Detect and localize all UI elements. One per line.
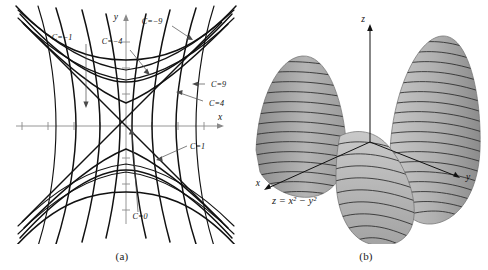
x-axis-label-3d: x xyxy=(255,178,261,188)
x-axis-arrow xyxy=(217,123,224,129)
x-axis-label: x xyxy=(217,112,223,122)
contour-label-c-9: C=9 xyxy=(211,80,226,89)
panel-a-contour-plot: C=−1 C=−4 C=−9 C=9 C=4 C=1 C=0 y x (a) xyxy=(0,0,244,270)
z-axis-label-3d: z xyxy=(360,14,365,24)
contour-label-c-neg4: C=−4 xyxy=(102,37,123,46)
y-axis-label: y xyxy=(113,12,119,22)
figure-container: C=−1 C=−4 C=−9 C=9 C=4 C=1 C=0 y x (a) xyxy=(0,0,488,270)
contour-label-c-neg9: C=−9 xyxy=(142,17,163,26)
panel-a-caption: (a) xyxy=(0,250,244,262)
z-axis-arrow-3d xyxy=(367,24,373,31)
y-axis-label-3d: y xyxy=(465,172,471,182)
contour-label-c-neg1: C=−1 xyxy=(52,33,73,42)
panel-b-caption: (b) xyxy=(244,250,488,262)
surface-plot-svg: z x y z = x² − y² xyxy=(244,0,488,244)
y-axis-arrow xyxy=(123,14,129,21)
surface-equation-label: z = x² − y² xyxy=(271,195,317,206)
contour-plot-svg: C=−1 C=−4 C=−9 C=9 C=4 C=1 C=0 y x xyxy=(0,0,244,244)
contour-label-c-0: C=0 xyxy=(132,212,147,221)
x-axis-arrow-3d xyxy=(264,184,271,190)
panel-b-surface-plot: z x y z = x² − y² (b) xyxy=(244,0,488,270)
contour-label-c-1: C=1 xyxy=(190,142,205,151)
leader-lines xyxy=(83,26,205,212)
contour-label-c-4: C=4 xyxy=(209,99,224,108)
